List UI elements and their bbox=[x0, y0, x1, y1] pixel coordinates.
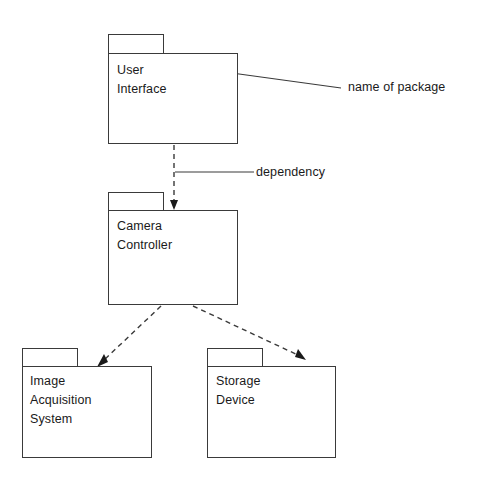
dependency-arrowhead-camera-to-storage bbox=[295, 349, 306, 360]
uml-package-diagram-canvas: User Interface Camera Controller Image A… bbox=[0, 0, 477, 485]
package-tab-user-interface bbox=[108, 34, 164, 54]
package-label-image-acquisition-system: Image Acquisition System bbox=[30, 372, 92, 429]
package-tab-storage-device bbox=[207, 348, 263, 367]
annotation-dependency: dependency bbox=[256, 165, 325, 180]
package-tab-image-acquisition-system bbox=[22, 348, 78, 367]
dependency-line-camera-to-image-acquisition bbox=[103, 306, 161, 361]
annotation-name-of-package: name of package bbox=[348, 80, 445, 95]
package-label-storage-device: Storage Device bbox=[216, 372, 260, 410]
package-label-camera-controller: Camera Controller bbox=[117, 217, 172, 255]
package-tab-camera-controller bbox=[108, 192, 164, 211]
dependency-arrowhead-ui-to-camera bbox=[170, 200, 178, 210]
package-label-user-interface: User Interface bbox=[117, 61, 167, 99]
